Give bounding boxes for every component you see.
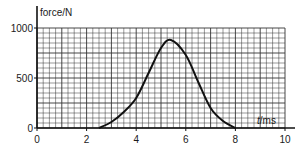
chart-grid: [37, 28, 285, 128]
x-tick-label: 0: [34, 134, 40, 145]
chart-axes: [34, 6, 295, 131]
x-tick-labels: 0246810: [34, 134, 291, 145]
y-axis-label: force/N: [40, 7, 72, 18]
y-tick-label: 0: [27, 123, 33, 134]
y-tick-label: 1000: [11, 23, 34, 34]
x-tick-label: 10: [279, 134, 291, 145]
x-tick-label: 2: [84, 134, 90, 145]
y-tick-labels: 05001000: [11, 23, 34, 134]
y-tick-label: 500: [16, 73, 33, 84]
x-tick-label: 8: [233, 134, 239, 145]
x-axis-label: t/ms: [257, 115, 276, 126]
x-tick-label: 6: [183, 134, 189, 145]
force-time-chart: 05001000 0246810 force/N t/ms: [0, 0, 303, 154]
x-tick-label: 4: [133, 134, 139, 145]
